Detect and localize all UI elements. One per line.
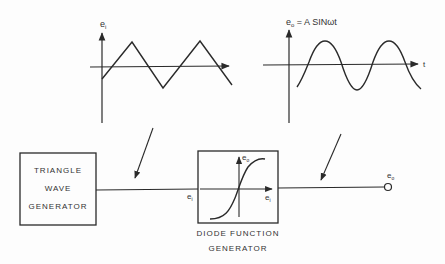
- triangle-block-line-3: GENERATOR: [29, 202, 88, 211]
- diode-caption-line-2: GENERATOR: [209, 244, 268, 253]
- output-x-label: t: [423, 60, 426, 69]
- input-waveform-graph: ei: [90, 19, 232, 123]
- input-y-label: ei: [100, 19, 106, 30]
- diode-inner-y-label: eo: [242, 153, 249, 163]
- input-wire: [96, 189, 198, 190]
- diode-function-generator-block: eo ei DIODE FUNCTION GENERATOR: [197, 151, 280, 253]
- input-x-axis: [90, 66, 229, 67]
- diode-caption-line-1: DIODE FUNCTION: [197, 229, 280, 238]
- diagram-canvas: ei eo = A SINωt t TRIANGLE WAVE GENERATO…: [0, 0, 445, 264]
- output-waveform-graph: eo = A SINωt t: [263, 17, 426, 123]
- input-wire-label: ei: [187, 192, 193, 202]
- output-x-axis: [263, 64, 418, 65]
- triangle-block-line-2: WAVE: [45, 184, 72, 193]
- diode-inner-x-label: ei: [265, 193, 271, 203]
- triangle-wave-curve: [102, 41, 232, 88]
- output-wire-label: eo: [387, 171, 394, 181]
- output-wire: [278, 187, 384, 188]
- triangle-wave-generator-block: TRIANGLE WAVE GENERATOR: [20, 153, 96, 225]
- sine-wave-curve: [297, 41, 421, 90]
- output-terminal: [385, 184, 392, 191]
- output-formula-label: eo = A SINωt: [286, 17, 337, 28]
- triangle-block-line-1: TRIANGLE: [34, 166, 82, 175]
- output-pointer-arrow: [321, 134, 341, 180]
- input-pointer-arrow: [135, 128, 153, 178]
